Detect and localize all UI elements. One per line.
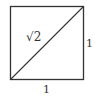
diagonal-line (11, 7, 84, 80)
diagonal-label: √2 (26, 30, 41, 44)
unit-square-diagram: √2 1 1 (0, 0, 96, 97)
right-side-label: 1 (86, 37, 93, 50)
bottom-side-label: 1 (43, 83, 50, 96)
